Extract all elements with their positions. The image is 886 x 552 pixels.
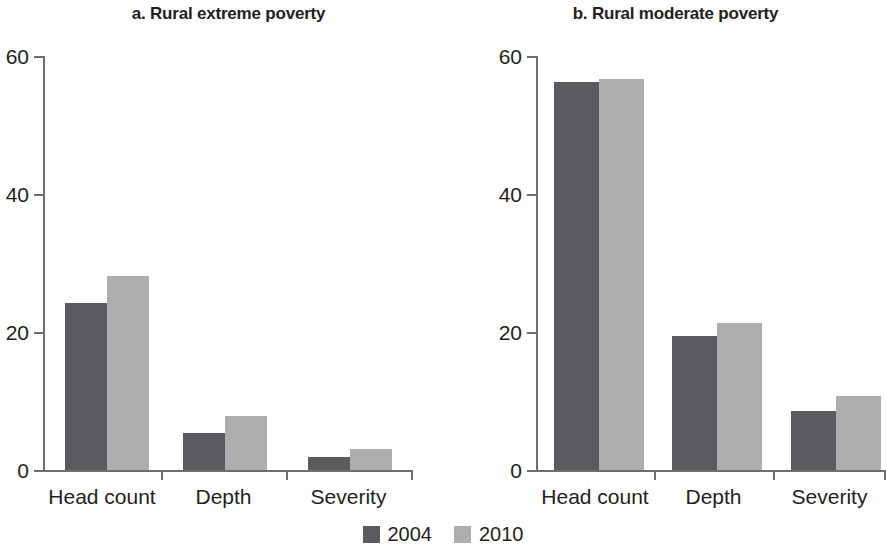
legend-item-2010: 2010 [454,524,524,544]
legend-swatch-icon-2004 [363,526,380,543]
panel-a-title: a. Rural extreme poverty [0,4,443,24]
panel-a-category-label-2: Severity [286,486,411,507]
panel-a-group-severity: Severity [286,56,411,470]
panel-a-ylabel-40: 40 [6,184,29,205]
panel-a-group-head-count: Head count [43,56,161,470]
legend-label-2004: 2004 [388,524,433,544]
legend-item-2004: 2004 [363,524,433,544]
panel-b-group-severity: Severity [773,56,886,470]
bar-a-head-count-2004 [65,303,107,470]
bar-a-severity-2004 [308,457,350,470]
panel-b-group-head-count: Head count [536,56,654,470]
chart-legend: 2004 2010 [0,524,886,544]
panel-a-ylabel-60: 60 [6,46,29,67]
panel-a-ylabel-0: 0 [17,460,29,481]
bar-b-depth-2010 [717,323,762,470]
bar-a-severity-2010 [350,449,392,470]
panel-b-category-label-2: Severity [773,486,886,507]
panel-a-category-label-1: Depth [161,486,286,507]
panel-b-xtick-1 [654,471,656,480]
panel-b-ylabel-20: 20 [499,322,522,343]
panel-a-plot-area: 60 40 20 0 Head count [43,56,413,470]
chart-panel-a: a. Rural extreme poverty 60 40 20 0 [0,0,443,520]
panel-b-group-depth: Depth [654,56,773,470]
panel-b-category-label-0: Head count [536,486,654,507]
chart-panel-b: b. Rural moderate poverty 60 40 20 0 [443,0,886,520]
panel-a-xtick-1 [161,471,163,480]
bar-b-head-count-2004 [554,82,599,470]
panel-b-title: b. Rural moderate poverty [443,4,886,24]
legend-swatch-icon-2010 [454,526,471,543]
bar-b-severity-2004 [791,411,836,470]
panel-a-category-label-0: Head count [43,486,161,507]
bar-b-severity-2010 [836,396,881,470]
panel-a-x-axis [43,470,413,472]
panel-b-ylabel-60: 60 [499,46,522,67]
bar-a-depth-2010 [225,416,267,471]
panel-b-xtick-2 [773,471,775,480]
legend-label-2010: 2010 [479,524,524,544]
panel-b-x-axis [536,470,886,472]
bar-a-depth-2004 [183,433,225,470]
panel-a-xtick-3 [411,471,413,480]
figure-root: a. Rural extreme poverty 60 40 20 0 [0,0,886,552]
panel-b-plot-area: 60 40 20 0 Head count [536,56,886,470]
panel-b-ylabel-0: 0 [510,460,522,481]
bar-a-head-count-2010 [107,276,149,470]
panel-a-ylabel-20: 20 [6,322,29,343]
bar-b-depth-2004 [672,336,717,470]
panel-a-xtick-2 [286,471,288,480]
panel-b-category-label-1: Depth [654,486,773,507]
bar-b-head-count-2010 [599,79,644,470]
panel-a-group-depth: Depth [161,56,286,470]
panel-b-ylabel-40: 40 [499,184,522,205]
